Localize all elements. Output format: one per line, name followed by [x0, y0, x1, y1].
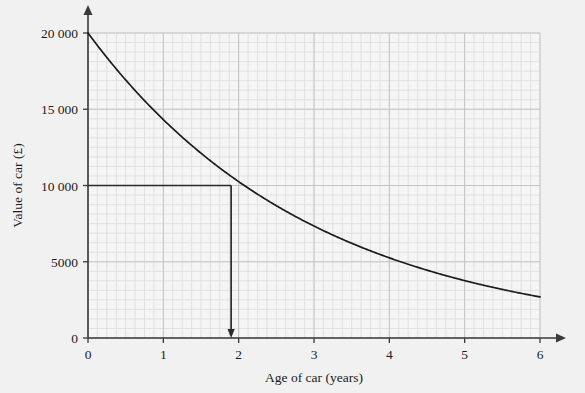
- value-of-car-line-chart: 01234560500010 00015 00020 000 Age of ca…: [0, 0, 585, 393]
- x-axis-title: Age of car (years): [265, 370, 363, 385]
- y-tick-label: 5000: [51, 255, 78, 270]
- x-tick-label: 0: [85, 347, 92, 362]
- y-tick-label: 10 000: [41, 179, 78, 194]
- y-tick-label: 15 000: [41, 102, 78, 117]
- chart-figure: 01234560500010 00015 00020 000 Age of ca…: [0, 0, 585, 393]
- x-tick-label: 5: [461, 347, 468, 362]
- y-axis-title: Value of car (£): [10, 143, 25, 227]
- x-tick-label: 2: [235, 347, 242, 362]
- x-tick-label: 6: [537, 347, 544, 362]
- x-tick-label: 3: [311, 347, 318, 362]
- y-tick-label: 0: [71, 331, 78, 346]
- y-tick-label: 20 000: [41, 26, 78, 41]
- x-tick-label: 4: [386, 347, 393, 362]
- x-tick-label: 1: [160, 347, 167, 362]
